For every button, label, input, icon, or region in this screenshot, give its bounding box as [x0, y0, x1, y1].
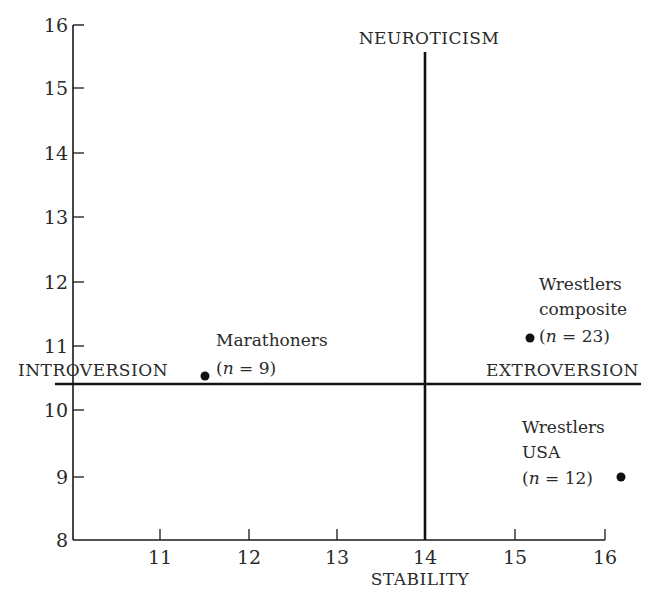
introversion-label: INTROVERSION: [18, 360, 168, 380]
wrestlers-composite-label: Wrestlers composite (n = 23): [539, 274, 627, 346]
wrestlers-usa-label-line2: USA: [522, 442, 561, 462]
wrestlers-composite-label-n: (n = 23): [539, 326, 610, 346]
x-tick-label: 14: [413, 546, 437, 568]
wrestlers-composite-point: [526, 334, 535, 343]
x-tick-label: 16: [593, 546, 617, 568]
x-tick-label: 12: [237, 546, 261, 568]
y-tick-label: 11: [44, 335, 68, 357]
y-tick-labels: 16 15 14 13 12 11 10 9 8: [44, 14, 68, 551]
wrestlers-usa-label-line1: Wrestlers: [522, 417, 605, 437]
x-tick-label: 15: [503, 546, 527, 568]
marathoners-label: Marathoners (n = 9): [216, 330, 328, 378]
quadrant-lines: [55, 52, 641, 540]
wrestlers-usa-label-n: (n = 12): [522, 468, 593, 488]
y-tick-label: 14: [44, 142, 68, 164]
axes: [73, 25, 605, 540]
stability-label: STABILITY: [371, 569, 470, 589]
eysenck-personality-quadrant-chart: 16 15 14 13 12 11 10 9 8 11 12 13 14 15 …: [0, 0, 652, 595]
y-tick-label: 12: [44, 271, 68, 293]
wrestlers-usa-label: Wrestlers USA (n = 12): [522, 417, 605, 488]
x-tick-label: 11: [148, 546, 172, 568]
y-tick-label: 15: [44, 77, 68, 99]
y-tick-label: 8: [56, 529, 68, 551]
y-tick-label: 9: [56, 466, 68, 488]
y-tick-label: 16: [44, 14, 68, 36]
wrestlers-usa-point: [617, 473, 626, 482]
x-tick-label: 13: [325, 546, 349, 568]
marathoners-label-line1: Marathoners: [216, 330, 328, 350]
data-points: [201, 334, 626, 482]
marathoners-point: [201, 372, 210, 381]
neuroticism-label: NEUROTICISM: [359, 28, 500, 48]
wrestlers-composite-label-line2: composite: [539, 299, 627, 319]
marathoners-label-n: (n = 9): [216, 358, 276, 378]
x-tick-labels: 11 12 13 14 15 16: [148, 546, 617, 568]
y-tick-label: 13: [44, 206, 68, 228]
extroversion-label: EXTROVERSION: [486, 360, 639, 380]
wrestlers-composite-label-line1: Wrestlers: [539, 274, 622, 294]
y-tick-label: 10: [44, 399, 68, 421]
